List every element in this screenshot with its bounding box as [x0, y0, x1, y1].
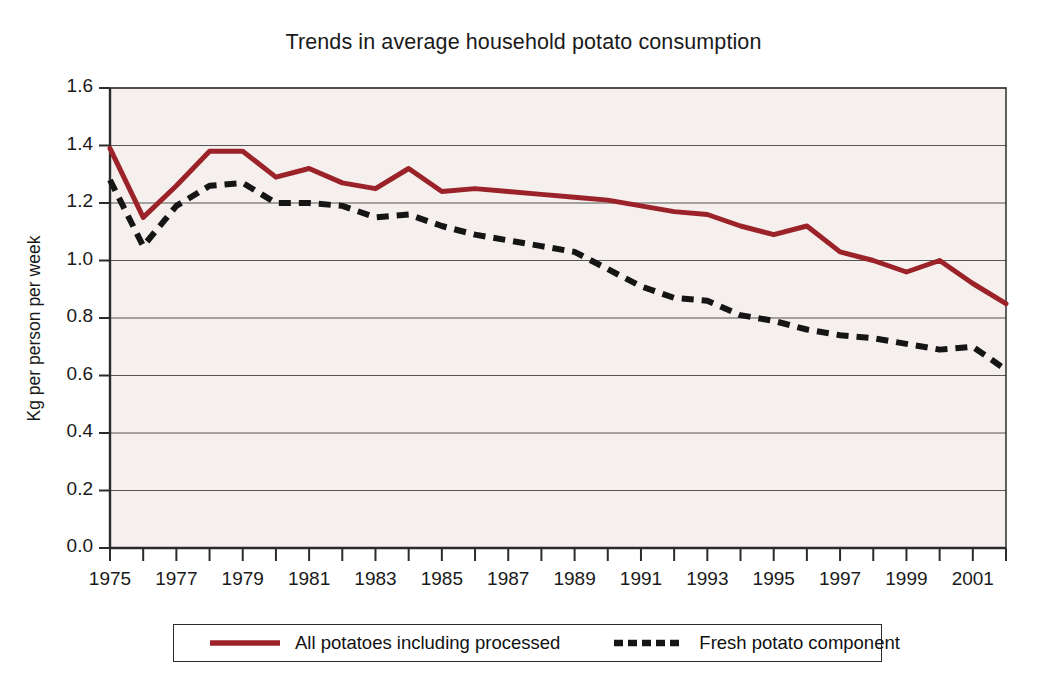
- x-tick-label: 1985: [407, 568, 477, 590]
- legend-item-fresh-potato: Fresh potato component: [612, 625, 900, 661]
- x-tick-label: 1987: [473, 568, 543, 590]
- x-tick-label: 2001: [938, 568, 1008, 590]
- y-tick-label: 0.4: [41, 420, 93, 442]
- y-tick-label: 0.6: [41, 363, 93, 385]
- legend-item-all-potatoes: All potatoes including processed: [208, 625, 560, 661]
- x-tick-label: 1995: [739, 568, 809, 590]
- x-tick-label: 1981: [274, 568, 344, 590]
- legend-label-fresh-potato: Fresh potato component: [699, 632, 900, 654]
- x-tick-label: 1999: [871, 568, 941, 590]
- y-axis-ticks: [99, 88, 110, 548]
- y-tick-label: 1.4: [41, 133, 93, 155]
- y-tick-label: 0.0: [41, 535, 93, 557]
- x-tick-label: 1989: [540, 568, 610, 590]
- x-tick-label: 1975: [75, 568, 145, 590]
- x-tick-label: 1991: [606, 568, 676, 590]
- x-tick-label: 1997: [805, 568, 875, 590]
- x-axis-ticks: [110, 548, 1006, 561]
- legend-swatch-solid: [208, 634, 282, 652]
- legend-label-all-potatoes: All potatoes including processed: [295, 632, 560, 654]
- x-tick-label: 1977: [141, 568, 211, 590]
- y-tick-label: 0.8: [41, 305, 93, 327]
- y-tick-label: 1.6: [41, 75, 93, 97]
- x-tick-label: 1979: [208, 568, 278, 590]
- y-tick-label: 1.0: [41, 248, 93, 270]
- chart-figure: Trends in average household potato consu…: [0, 0, 1047, 693]
- x-tick-label: 1983: [340, 568, 410, 590]
- chart-legend: All potatoes including processed Fresh p…: [173, 624, 882, 662]
- legend-swatch-dashed: [612, 634, 686, 652]
- y-tick-label: 1.2: [41, 190, 93, 212]
- x-tick-label: 1993: [672, 568, 742, 590]
- y-tick-label: 0.2: [41, 478, 93, 500]
